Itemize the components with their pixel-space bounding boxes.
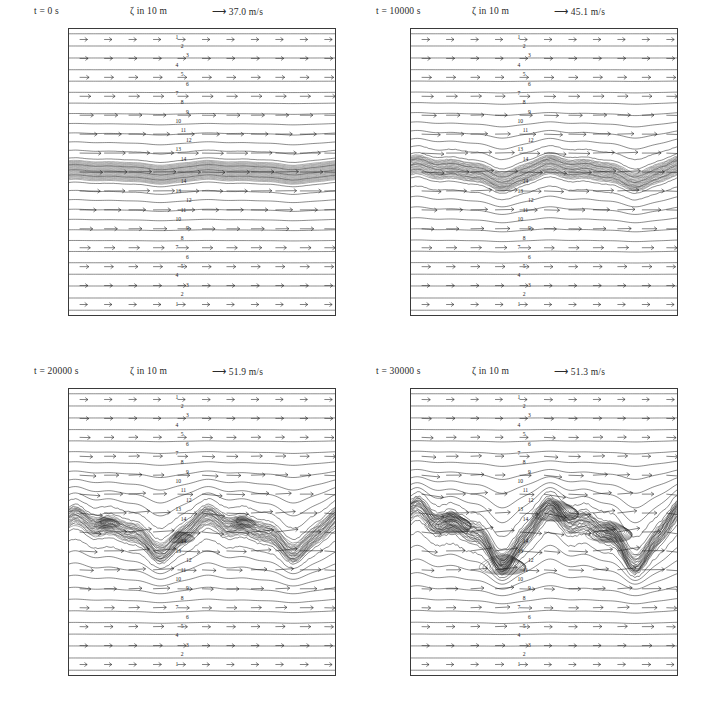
contour-vector-plot: 11223344556677889910101111121213131414 [69,29,335,315]
contour-level-label: 1 [517,34,520,40]
panel-title: t = 0 s ζ in 10 m ⟶ 37.0 m/s [22,6,342,28]
contour-vector-plot: 11223344556677889910101111121213131414 [411,389,677,675]
contour-level-label: 2 [181,651,184,657]
contour-level-label: 5 [523,623,526,629]
panel-t10000: t = 10000 s ζ in 10 m ⟶ 45.1 m/s 1122334… [364,6,684,356]
contour-level-label: 8 [181,99,184,105]
contour-level-label: 14 [181,156,187,162]
contour-level-label: 11 [523,207,529,213]
panel-time-label: t = 20000 s [34,366,79,376]
contour-level-label: 10 [175,118,181,124]
panel-t20000: t = 20000 s ζ in 10 m ⟶ 51.9 m/s 1122334… [22,366,342,716]
contour-level-label: 10 [517,216,523,222]
contour-level-label: 7 [517,450,520,456]
panel-vector-scale-label: ⟶ 51.3 m/s [554,366,605,377]
contour-level-label: 6 [186,254,189,260]
contour-level-label: 3 [528,642,531,648]
contour-level-label: 1 [175,394,178,400]
contour-level-label: 9 [528,585,531,591]
contour-level-label: 13 [517,548,523,554]
contour-level-label: 3 [186,52,189,58]
contour-level-label: 14 [523,516,529,522]
contour-level-label: 5 [181,263,184,269]
contour-level-label: 7 [175,604,178,610]
panel-zeta-label: ζ in 10 m [472,366,509,376]
panel-time-label: t = 0 s [34,6,59,16]
contour-level-label: 3 [528,282,531,288]
contour-level-label: 12 [186,497,192,503]
contour-level-label: 4 [175,422,178,428]
contour-level-label: 14 [181,538,187,544]
plot-area: 11223344556677889910101111121213131414 5… [410,28,678,316]
contour-level-label: 10 [175,576,181,582]
panel-vector-scale-label: ⟶ 51.9 m/s [212,366,263,377]
panel-time-label: t = 30000 s [376,366,421,376]
contour-level-label: 4 [517,632,520,638]
contour-level-label: 9 [186,585,189,591]
contour-level-label: 7 [517,90,520,96]
contour-level-label: 6 [528,81,531,87]
contour-level-label: 5 [523,71,526,77]
plot-area: 11223344556677889910101111121213131414 5… [68,28,336,316]
contour-level-label: 2 [523,43,526,49]
contour-level-label: 6 [528,614,531,620]
contour-level-label: 10 [517,118,523,124]
contour-level-label: 12 [186,557,192,563]
panel-zeta-label: ζ in 10 m [130,6,167,16]
contour-level-label: 13 [175,548,181,554]
contour-level-label: 1 [175,301,178,307]
contour-level-label: 4 [517,62,520,68]
contour-level-label: 11 [181,567,187,573]
contour-level-label: 4 [517,272,520,278]
contour-level-label: 8 [523,235,526,241]
contour-level-label: 6 [186,81,189,87]
contour-level-label: 8 [181,459,184,465]
contour-level-label: 13 [517,506,523,512]
contour-level-label: 8 [181,595,184,601]
contour-level-label: 11 [181,487,187,493]
contour-level-label: 12 [528,137,534,143]
contour-level-label: 2 [181,403,184,409]
contour-level-label: 2 [181,43,184,49]
panel-zeta-label: ζ in 10 m [472,6,509,16]
contour-level-label: 6 [186,441,189,447]
contour-level-label: 7 [175,450,178,456]
contour-vector-plot: 11223344556677889910101111121213131414 [69,389,335,675]
panel-zeta-label: ζ in 10 m [130,366,167,376]
contour-level-label: 13 [517,188,523,194]
contour-level-label: 12 [186,197,192,203]
contour-level-label: 7 [517,244,520,250]
panel-t30000: t = 30000 s ζ in 10 m ⟶ 51.3 m/s 1122334… [364,366,684,716]
contour-level-label: 1 [175,34,178,40]
contour-level-label: 14 [523,178,529,184]
contour-level-label: 1 [517,394,520,400]
contour-level-label: 4 [175,632,178,638]
contour-level-label: 13 [517,146,523,152]
contour-level-label: 3 [186,412,189,418]
contour-level-label: 8 [523,99,526,105]
contour-level-label: 12 [528,497,534,503]
contour-level-label: 1 [517,661,520,667]
contour-level-label: 13 [175,188,181,194]
contour-level-label: 6 [528,441,531,447]
contour-level-label: 9 [186,225,189,231]
contour-level-label: 11 [181,127,187,133]
contour-level-label: 10 [175,216,181,222]
contour-level-label: 3 [528,412,531,418]
panel-title: t = 30000 s ζ in 10 m ⟶ 51.3 m/s [364,366,684,388]
contour-vector-plot: 11223344556677889910101111121213131414 [411,29,677,315]
contour-level-label: 4 [175,272,178,278]
contour-level-label: 12 [528,557,534,563]
contour-level-label: 10 [175,478,181,484]
contour-level-label: 5 [181,71,184,77]
contour-level-label: 5 [523,431,526,437]
contour-level-label: 9 [528,225,531,231]
contour-level-label: 11 [523,127,529,133]
figure-canvas: t = 0 s ζ in 10 m ⟶ 37.0 m/s 11223344556… [0,0,703,726]
contour-level-label: 2 [181,291,184,297]
contour-level-label: 10 [517,478,523,484]
contour-level-label: 8 [523,595,526,601]
contour-level-label: 2 [523,651,526,657]
panel-title: t = 10000 s ζ in 10 m ⟶ 45.1 m/s [364,6,684,28]
contour-level-label: 3 [528,52,531,58]
